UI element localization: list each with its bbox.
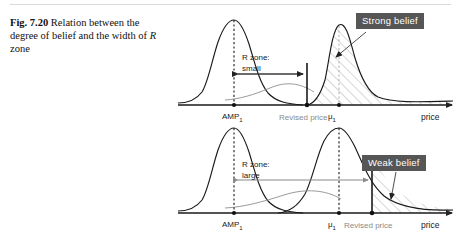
figure-page: Fig. 7.20 Relation between the degree of… [0, 0, 461, 248]
amp-subscript-bottom: 1 [239, 225, 242, 231]
overlap-tail-curve-2 [225, 191, 341, 208]
amp-text-bottom: AMP [222, 220, 239, 229]
figure-graphic [178, 0, 461, 248]
mu-axis-label-bottom: μ1 [328, 220, 336, 233]
mu-tick-dot [337, 103, 341, 107]
price-axis-label-bottom: price [421, 221, 439, 230]
amp-axis-label-top: AMP1 [222, 112, 243, 125]
r-zone-label-top-line1: R zone: [242, 53, 270, 62]
amp-tick-dot-2 [232, 211, 236, 215]
strong-belief-panel [178, 20, 453, 107]
overlap-tail-curve [225, 84, 314, 100]
r-zone-label-bottom-line2: large [242, 171, 260, 180]
mu-axis-label-top: μ1 [328, 112, 336, 125]
r-zone-label-top-line2: small [242, 64, 261, 73]
amp-subscript-top: 1 [239, 117, 242, 123]
r-zone-label-bottom-line1: R zone: [242, 160, 270, 169]
mu-tick-dot-2 [337, 211, 341, 215]
mu-subscript-top: 1 [333, 117, 336, 123]
prior-distribution-curve [178, 20, 303, 105]
price-axis-label-top: price [421, 113, 439, 122]
revised-price-tick-dot [305, 103, 310, 108]
revised-price-axis-label-bottom: Revised price [344, 221, 392, 230]
prior-distribution-curve-2 [178, 128, 303, 213]
caption-text-after: zone [10, 43, 30, 54]
revised-price-axis-label-top: Revised price [279, 113, 327, 122]
weak-belief-panel [178, 128, 453, 215]
revised-price-tick-dot-2 [370, 211, 375, 216]
figure-number: Fig. 7.20 [10, 17, 48, 28]
mu-subscript-bottom: 1 [333, 225, 336, 231]
strong-belief-hatched-area [307, 24, 453, 105]
amp-axis-label-bottom: AMP1 [222, 220, 243, 233]
amp-tick-dot [232, 103, 236, 107]
amp-text-top: AMP [222, 112, 239, 121]
strong-belief-callout: Strong belief [356, 13, 424, 29]
figure-caption: Fig. 7.20 Relation between the degree of… [10, 16, 162, 56]
weak-belief-callout: Weak belief [362, 155, 426, 171]
caption-italic-symbol: R [150, 30, 156, 41]
